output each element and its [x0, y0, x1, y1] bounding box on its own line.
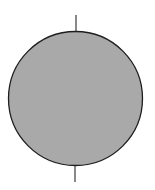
- diagram-canvas: [0, 0, 155, 190]
- sphere-with-axis-diagram: [0, 0, 155, 190]
- sphere-circle: [9, 32, 143, 166]
